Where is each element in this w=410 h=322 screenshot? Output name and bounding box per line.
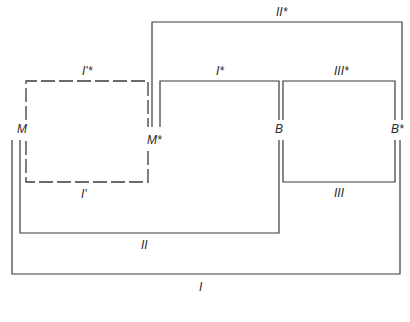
node-M: M <box>17 122 27 136</box>
label-I-prime: I' <box>81 187 87 201</box>
label-I-star: I* <box>216 64 224 78</box>
label-III-star: III* <box>334 64 349 78</box>
node-B-star: B* <box>391 122 404 136</box>
path-I-star <box>160 81 279 127</box>
circuit-diagram: M M* B B* I'* I' I* II* III* III II I <box>0 0 410 322</box>
path-III <box>283 140 395 182</box>
label-II: II <box>141 238 148 252</box>
path-I-prime <box>26 141 148 182</box>
label-II-star: II* <box>276 5 288 19</box>
label-I: I <box>199 280 203 294</box>
path-I-prime-star <box>26 81 148 127</box>
label-I-prime-star: I'* <box>82 64 93 78</box>
node-M-star: M* <box>147 133 162 147</box>
node-B: B <box>275 122 283 136</box>
path-III-star <box>283 81 395 120</box>
path-I <box>12 140 400 274</box>
path-II <box>20 140 279 233</box>
label-III: III <box>334 186 345 200</box>
path-II-star <box>152 22 402 127</box>
